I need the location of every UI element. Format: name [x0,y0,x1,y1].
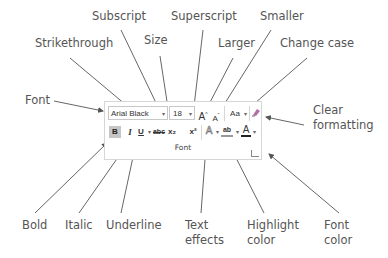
separator [249,106,250,121]
separator [201,125,202,140]
bold-button[interactable]: B [109,126,121,138]
grow-font-button[interactable]: A^ [198,108,208,123]
subscript-button[interactable]: x₂ [167,126,177,138]
label-larger: Larger [218,36,255,51]
label-font-color-line2: color [324,233,352,248]
text-effects-button[interactable]: A [204,125,214,137]
label-highlight-line1: Highlight [247,218,299,233]
strikethrough-button[interactable]: abc [152,126,166,138]
font-name-combobox[interactable]: Arial Black ▾ [108,106,168,120]
superscript-button[interactable]: x² [188,126,198,138]
chevron-down-icon[interactable]: ▾ [234,126,240,138]
label-strikethrough: Strikethrough [35,36,113,51]
font-size-value: 18 [173,109,182,118]
label-bold: Bold [22,218,47,233]
label-italic: Italic [65,218,93,233]
shrink-font-button[interactable]: Aˇ [211,109,221,125]
label-subscript: Subscript [92,9,146,24]
chevron-down-icon[interactable]: ▾ [214,126,220,138]
font-size-combobox[interactable]: 18 ▾ [169,106,195,120]
change-case-icon: Aa [230,109,240,118]
chevron-down-icon[interactable]: ▾ [162,107,165,120]
highlight-color-button[interactable]: ab [221,125,233,137]
chevron-down-icon[interactable]: ▾ [242,108,248,120]
label-change-case: Change case [280,36,354,51]
label-superscript: Superscript [171,9,237,24]
label-smaller: Smaller [260,9,304,24]
label-clear-formatting-line2: formatting [313,118,374,133]
font-color-button[interactable]: A [241,125,251,137]
group-label-font: Font [105,143,261,152]
separator [224,106,225,121]
font-name-value: Arial Black [111,109,149,118]
label-text-effects-line2: effects [185,233,224,248]
clear-formatting-button[interactable] [251,107,261,120]
underline-button[interactable]: U [136,126,146,138]
label-highlight-line2: color [247,233,275,248]
chevron-down-icon[interactable]: ▾ [189,107,192,121]
font-group-panel: Arial Black ▾ 18 ▾ A^ Aˇ Aa ▾ B I U ▾ ab… [104,101,262,160]
label-font-color-line1: Font [324,218,349,233]
clear-formatting-icon [251,107,261,117]
chevron-down-icon[interactable]: ▾ [251,126,257,138]
change-case-button[interactable]: Aa [227,108,243,120]
italic-button[interactable]: I [125,126,135,138]
label-font: Font [25,93,50,108]
label-underline: Underline [106,218,162,233]
dialog-launcher-icon[interactable] [251,150,259,157]
label-clear-formatting-line1: Clear [313,103,343,118]
label-size: Size [144,33,168,48]
label-text-effects-line1: Text [185,218,208,233]
